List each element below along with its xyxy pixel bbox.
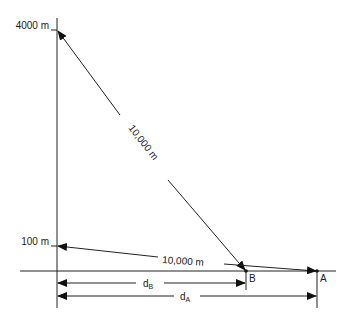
distance-diagram: 4000 m 100 m 10,000 m 10,000 m B A dB dA (0, 0, 353, 321)
label-db: dB (143, 278, 154, 290)
label-a: A (320, 273, 327, 284)
slant-line-4000-upper (58, 31, 120, 115)
label-b: B (249, 273, 256, 284)
diagram-canvas: 4000 m 100 m 10,000 m 10,000 m B A dB dA (0, 0, 353, 321)
label-4000m: 4000 m (16, 20, 49, 31)
slant-line-100-left (58, 246, 158, 257)
slant-label-upper: 10,000 m (126, 122, 160, 162)
label-da: dA (180, 291, 191, 303)
label-100m: 100 m (21, 236, 49, 247)
slant-label-lower: 10,000 m (162, 254, 204, 268)
slant-line-100-right (224, 264, 316, 271)
